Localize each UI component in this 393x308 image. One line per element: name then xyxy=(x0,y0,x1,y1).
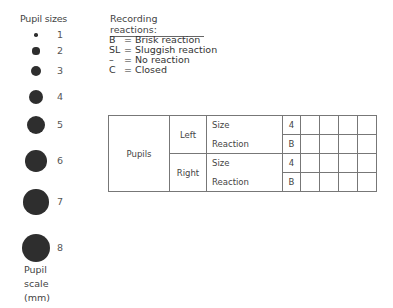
pupil-size-label: 7 xyxy=(57,196,63,207)
blank-cell[interactable] xyxy=(339,173,358,192)
side-left-label: Left xyxy=(170,116,207,154)
pupil-sizes-title: Pupil sizes xyxy=(20,13,67,24)
value-cell[interactable]: 4 xyxy=(283,116,301,135)
legend-equals: = xyxy=(121,65,135,75)
pupil-size-label: 4 xyxy=(57,91,63,102)
pupils-label: Pupils xyxy=(109,116,170,192)
pupil-size-label: 5 xyxy=(57,119,63,130)
legend-item: C = Closed xyxy=(109,65,217,75)
scale-label-line: scale xyxy=(24,277,50,291)
pupil-scale-label: Pupil scale (mm) xyxy=(24,263,50,305)
pupils-table: Pupils Left Size 4 Reaction B Right Size… xyxy=(108,115,377,192)
pupil-size-label: 6 xyxy=(57,155,63,166)
param-label: Reaction xyxy=(207,135,283,154)
pupil-size-label: 2 xyxy=(57,45,63,56)
blank-cell[interactable] xyxy=(320,154,339,173)
pupil-size-dot xyxy=(31,66,42,77)
pupil-size-dot xyxy=(25,150,47,172)
param-label: Size xyxy=(207,154,283,173)
blank-cell[interactable] xyxy=(339,116,358,135)
blank-cell[interactable] xyxy=(301,173,320,192)
pupil-size-dot xyxy=(34,33,38,37)
pupil-size-dot xyxy=(32,47,39,54)
blank-cell[interactable] xyxy=(320,116,339,135)
value-cell[interactable]: B xyxy=(283,135,301,154)
pupil-size-label: 3 xyxy=(57,65,63,76)
blank-cell[interactable] xyxy=(358,135,377,154)
legend-meaning: Closed xyxy=(135,65,167,75)
param-label: Reaction xyxy=(207,173,283,192)
scale-label-line: Pupil xyxy=(24,263,50,277)
legend-key: C xyxy=(109,65,121,75)
pupil-size-dot xyxy=(23,189,48,214)
value-cell[interactable]: B xyxy=(283,173,301,192)
scale-label-line: (mm) xyxy=(24,291,50,305)
reaction-legend: B = Brisk reaction SL = Sluggish reactio… xyxy=(109,35,217,75)
blank-cell[interactable] xyxy=(320,135,339,154)
blank-cell[interactable] xyxy=(339,135,358,154)
value-cell[interactable]: 4 xyxy=(283,154,301,173)
pupil-size-label: 8 xyxy=(57,242,63,253)
blank-cell[interactable] xyxy=(339,154,358,173)
pupil-size-dot xyxy=(22,234,51,263)
blank-cell[interactable] xyxy=(301,135,320,154)
blank-cell[interactable] xyxy=(358,154,377,173)
param-label: Size xyxy=(207,116,283,135)
pupil-size-dot xyxy=(27,116,45,134)
blank-cell[interactable] xyxy=(358,116,377,135)
blank-cell[interactable] xyxy=(301,154,320,173)
pupil-size-label: 1 xyxy=(57,29,63,40)
pupil-size-dot xyxy=(29,90,43,104)
table-row: Pupils Left Size 4 xyxy=(109,116,377,135)
blank-cell[interactable] xyxy=(301,116,320,135)
blank-cell[interactable] xyxy=(320,173,339,192)
side-right-label: Right xyxy=(170,154,207,192)
blank-cell[interactable] xyxy=(358,173,377,192)
